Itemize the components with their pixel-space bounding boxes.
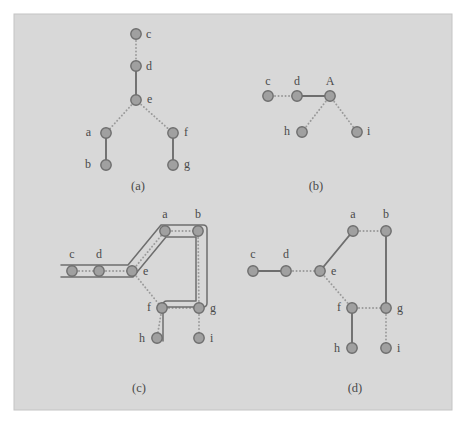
node-label-c-b: b <box>195 207 201 221</box>
node-d-c[interactable] <box>248 266 258 276</box>
node-b-i[interactable] <box>352 127 362 137</box>
node-label-d-c: c <box>250 247 255 261</box>
node-label-d-a: a <box>350 207 356 221</box>
node-d-a[interactable] <box>348 226 358 236</box>
node-label-d-f: f <box>337 300 341 314</box>
node-label-d-e: e <box>331 264 336 278</box>
node-label-a-b: b <box>85 157 91 171</box>
node-b-A[interactable] <box>325 91 335 101</box>
node-a-a[interactable] <box>101 128 111 138</box>
node-c-i[interactable] <box>194 333 204 343</box>
node-a-d[interactable] <box>131 61 141 71</box>
node-label-d-g: g <box>397 301 403 315</box>
node-d-b[interactable] <box>381 226 391 236</box>
node-label-c-a: a <box>162 207 168 221</box>
node-d-d[interactable] <box>281 266 291 276</box>
node-c-g[interactable] <box>194 303 204 313</box>
node-b-d[interactable] <box>292 91 302 101</box>
node-label-b-A: A <box>326 74 335 88</box>
node-a-b[interactable] <box>101 160 111 170</box>
node-c-e[interactable] <box>127 266 137 276</box>
node-c-b[interactable] <box>193 226 203 236</box>
node-d-f[interactable] <box>347 303 357 313</box>
node-c-c[interactable] <box>67 266 77 276</box>
node-c-h[interactable] <box>152 333 162 343</box>
node-label-c-h: h <box>139 331 145 345</box>
node-c-d[interactable] <box>94 266 104 276</box>
node-label-a-e: e <box>147 92 152 106</box>
node-c-a[interactable] <box>160 226 170 236</box>
node-label-b-d: d <box>294 74 300 88</box>
panel-caption-b: (b) <box>309 179 324 193</box>
node-label-a-d: d <box>146 59 152 73</box>
node-label-a-g: g <box>184 157 190 171</box>
node-d-e[interactable] <box>315 266 325 276</box>
node-label-d-b: b <box>383 207 389 221</box>
figure-canvas: cdeafbg(a)cdAhi(b)cdeabfghi(c)cdeabfghi(… <box>0 0 466 424</box>
node-a-c[interactable] <box>131 29 141 39</box>
node-label-c-g: g <box>210 301 216 315</box>
panel-caption-d: (d) <box>348 381 363 395</box>
node-d-h[interactable] <box>347 343 357 353</box>
figure-root: cdeafbg(a)cdAhi(b)cdeabfghi(c)cdeabfghi(… <box>0 0 466 424</box>
node-b-h[interactable] <box>297 127 307 137</box>
node-b-c[interactable] <box>263 91 273 101</box>
panel-caption-c: (c) <box>132 381 146 395</box>
node-label-a-f: f <box>184 125 188 139</box>
panel-caption-a: (a) <box>131 179 145 193</box>
node-d-g[interactable] <box>381 303 391 313</box>
node-label-b-h: h <box>284 124 290 138</box>
node-label-b-c: c <box>265 74 270 88</box>
node-a-f[interactable] <box>168 128 178 138</box>
node-label-c-d: d <box>96 247 102 261</box>
node-label-c-c: c <box>69 247 74 261</box>
node-a-e[interactable] <box>131 95 141 105</box>
node-label-c-e: e <box>143 264 148 278</box>
node-label-a-c: c <box>146 27 151 41</box>
node-c-f[interactable] <box>157 303 167 313</box>
node-label-d-d: d <box>283 247 289 261</box>
node-d-i[interactable] <box>381 343 391 353</box>
node-label-a-a: a <box>86 125 92 139</box>
node-label-c-f: f <box>147 300 151 314</box>
node-label-d-h: h <box>334 341 340 355</box>
node-a-g[interactable] <box>168 160 178 170</box>
